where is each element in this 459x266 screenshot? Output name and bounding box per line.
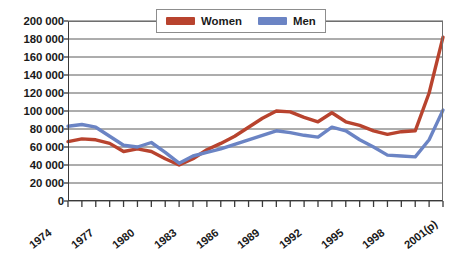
y-tick-label: 200 000 [2,16,64,27]
y-tick-label: 120 000 [2,88,64,99]
legend-swatch-women [166,17,195,25]
legend-label: Women [201,15,242,27]
plot-frame [68,21,443,201]
x-tick-label: 1995 [318,226,345,251]
x-tick-label: 1998 [360,226,387,251]
legend-entry: Men [258,15,316,27]
x-tick-label: 1989 [235,226,262,251]
y-tick-label: 80 000 [2,124,64,135]
y-tick-label: 100 000 [2,106,64,117]
x-tick-label: 1983 [152,226,179,251]
y-tick-label: 160 000 [2,52,64,63]
chart-legend: WomenMen [156,9,326,33]
y-tick-label: 140 000 [2,70,64,81]
y-tick-label: 60 000 [2,142,64,153]
x-tick-label: 1980 [110,226,137,251]
y-tick-label: 40 000 [2,160,64,171]
x-tick-label: 1977 [68,226,95,251]
plot-area [68,21,443,201]
x-tick-label: 1974 [27,226,54,251]
y-tick-label: 20 000 [2,178,64,189]
legend-entry: Women [166,15,242,27]
chart-figure: 200 000180 000160 000140 000120 000100 0… [0,0,459,266]
x-tick-label: 1992 [277,226,304,251]
caption-strip [0,255,459,266]
y-tick-label: 0 [2,196,64,207]
legend-label: Men [293,15,316,27]
x-axis-tick-labels: 1974197719801983198619891992199519982001… [68,201,443,259]
legend-swatch-men [258,17,287,25]
x-tick-label: 2001(p) [402,218,440,251]
y-axis-tick-labels: 200 000180 000160 000140 000120 000100 0… [0,0,64,210]
x-tick-label: 1986 [193,226,220,251]
y-tick-label: 180 000 [2,34,64,45]
